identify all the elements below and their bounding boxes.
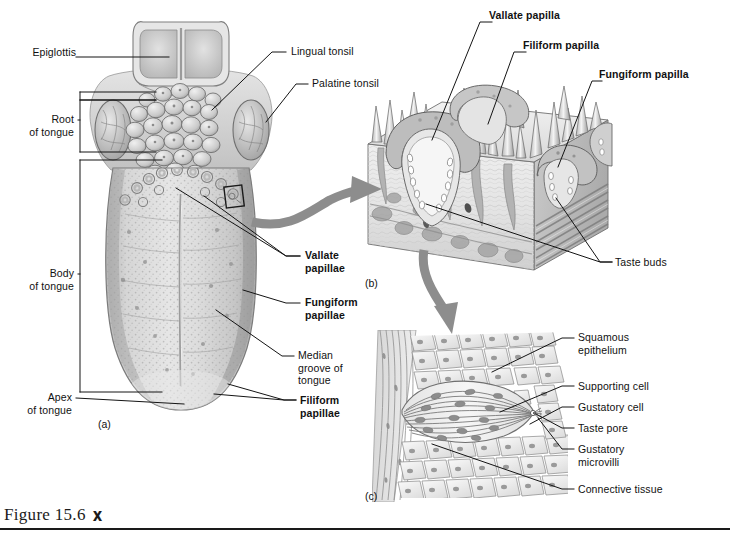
label-lingual-tonsil: Lingual tonsil <box>291 45 354 58</box>
label-root-of-tongue: Root of tongue <box>0 113 74 138</box>
label-taste-pore: Taste pore <box>578 422 628 435</box>
label-filiform-papilla: Filiform papilla <box>523 39 599 52</box>
panel-tag-a: (a) <box>98 418 111 430</box>
papillae-block-illustration <box>362 58 614 290</box>
label-palatine-tonsil: Palatine tonsil <box>312 77 379 90</box>
label-vallate-papilla: Vallate papilla <box>489 9 560 22</box>
label-gustatory-microvilli: Gustatory microvilli <box>578 443 624 468</box>
label-gustatory-cell: Gustatory cell <box>578 401 644 414</box>
label-supporting-cell: Supporting cell <box>578 380 649 393</box>
figure-caption: Figure 15.6 x <box>4 505 103 525</box>
label-taste-buds: Taste buds <box>615 256 667 269</box>
label-fungiform-papillae: Fungiform papillae <box>305 296 358 321</box>
label-apex-of-tongue: Apex of tongue <box>0 391 72 416</box>
bottom-divider <box>0 528 730 530</box>
label-squamous-epithelium: Squamous epithelium <box>578 331 629 356</box>
taste-bud-histology-illustration <box>372 330 572 502</box>
figure-container: Epiglottis Root of tongue Body of tongue… <box>0 0 730 534</box>
label-connective-tissue: Connective tissue <box>578 483 663 496</box>
label-filiform-papillae: Filiform papillae <box>300 394 340 419</box>
panel-tag-b: (b) <box>365 277 378 289</box>
running-figure-icon: x <box>93 505 103 525</box>
label-fungiform-papilla: Fungiform papilla <box>599 68 689 81</box>
label-vallate-papillae: Vallate papillae <box>305 249 345 274</box>
label-body-of-tongue: Body of tongue <box>0 267 74 292</box>
panel-tag-c: (c) <box>365 490 377 502</box>
tongue-superior-view-illustration <box>85 18 280 418</box>
label-median-groove-of-tongue: Median groove of tongue <box>298 349 343 387</box>
label-epiglottis: Epiglottis <box>0 46 76 59</box>
figure-caption-text: Figure 15.6 <box>4 505 86 524</box>
